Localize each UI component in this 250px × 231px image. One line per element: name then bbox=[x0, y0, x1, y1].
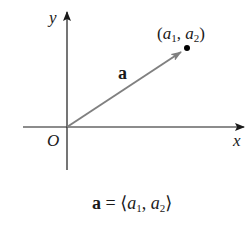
caption-vector: a bbox=[92, 193, 101, 213]
component-a1: a bbox=[163, 24, 172, 43]
caption-separator: , bbox=[142, 193, 151, 213]
vector-label: a bbox=[118, 64, 127, 82]
caption-a2: a bbox=[151, 193, 160, 213]
x-axis-label: x bbox=[233, 132, 241, 149]
component-a2: a bbox=[185, 24, 194, 43]
tip-point-label: (a1, a2) bbox=[157, 25, 205, 44]
caption-angle-close: ⟩ bbox=[165, 193, 172, 213]
tip-point bbox=[184, 45, 190, 51]
separator: , bbox=[177, 24, 186, 43]
paren-close: ) bbox=[199, 24, 205, 43]
caption-a1: a bbox=[127, 193, 136, 213]
origin-label: O bbox=[47, 132, 59, 149]
y-axis-label: y bbox=[49, 9, 57, 26]
caption: a = ⟨a1, a2⟩ bbox=[92, 194, 172, 214]
caption-equals: = ⟨ bbox=[101, 193, 127, 213]
